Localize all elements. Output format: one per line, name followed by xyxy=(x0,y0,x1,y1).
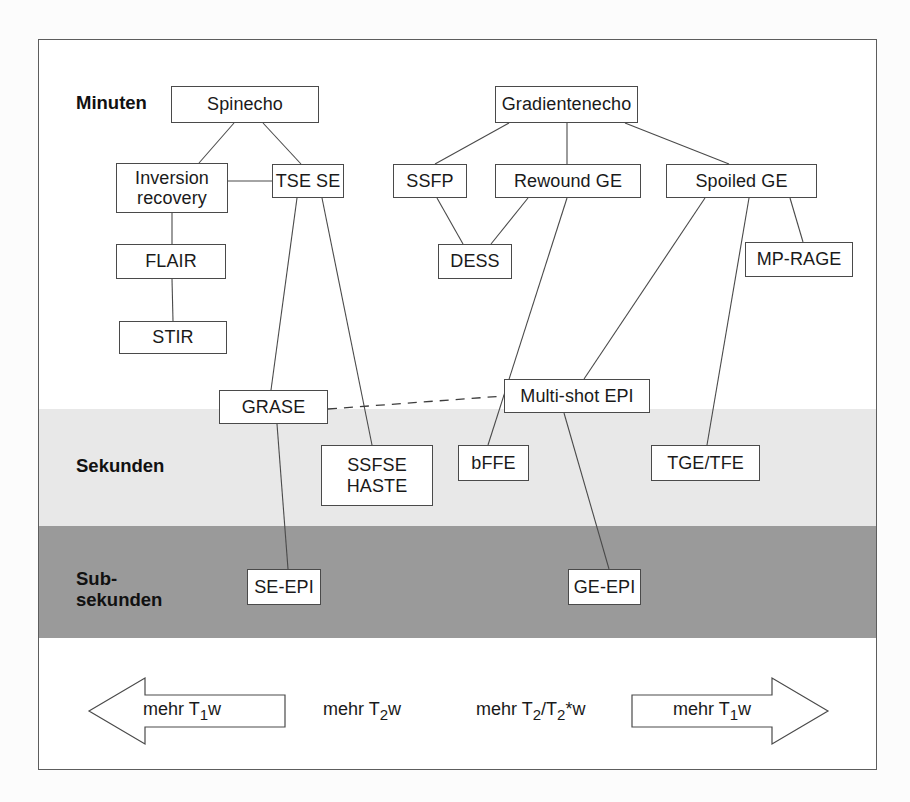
scale-label-sekunden: Sekunden xyxy=(76,455,164,476)
node-se-epi[interactable]: SE-EPI xyxy=(247,569,321,605)
edge-spoiled-ge-multi-shot-epi xyxy=(584,198,705,379)
diagram-frame: Minuten Sekunden Sub- sekunden Spinecho … xyxy=(38,39,877,770)
edge-spinecho-tse-se xyxy=(263,123,301,164)
edge-multi-shot-epi-ge-epi xyxy=(564,413,609,569)
edge-tse-se-grase xyxy=(271,198,297,390)
node-ssfse-haste[interactable]: SSFSE HASTE xyxy=(321,445,433,506)
scale-label-subsekunden: Sub- sekunden xyxy=(76,568,162,611)
axis-label-t2w: mehr T2w xyxy=(323,699,401,723)
node-spoiled-ge[interactable]: Spoiled GE xyxy=(666,164,817,198)
node-ssfp[interactable]: SSFP xyxy=(393,164,467,198)
node-ge-epi[interactable]: GE-EPI xyxy=(568,569,641,605)
node-dess[interactable]: DESS xyxy=(438,244,512,279)
node-grase[interactable]: GRASE xyxy=(219,390,328,424)
node-flair[interactable]: FLAIR xyxy=(116,244,226,279)
edge-rewound-ge-dess xyxy=(491,198,528,244)
node-multi-shot-epi[interactable]: Multi-shot EPI xyxy=(504,379,650,413)
node-rewound-ge[interactable]: Rewound GE xyxy=(495,164,641,198)
scale-label-minuten: Minuten xyxy=(76,92,147,113)
left-arrow-label: mehr T1w xyxy=(143,699,221,723)
edge-ssfp-dess xyxy=(437,198,463,244)
node-inversion-recovery[interactable]: Inversion recovery xyxy=(116,163,228,213)
diagram-page: Minuten Sekunden Sub- sekunden Spinecho … xyxy=(0,0,910,802)
axis-label-t2-t2star-w: mehr T2/T2*w xyxy=(476,699,585,723)
node-bffe[interactable]: bFFE xyxy=(458,445,529,481)
edge-gradientenecho-ssfp xyxy=(435,123,509,164)
edge-spinecho-inversion-recovery xyxy=(199,123,234,163)
node-tge-tfe[interactable]: TGE/TFE xyxy=(651,445,760,481)
node-mp-rage[interactable]: MP-RAGE xyxy=(745,242,853,277)
node-spinecho[interactable]: Spinecho xyxy=(171,86,319,123)
edge-grase-se-epi xyxy=(277,424,288,569)
connector-lines xyxy=(39,40,878,771)
edge-spoiled-ge-mp-rage xyxy=(790,198,803,242)
edge-spoiled-ge-tge-tfe xyxy=(707,198,749,445)
right-arrow-label: mehr T1w xyxy=(673,699,751,723)
edge-flair-stir xyxy=(172,279,173,321)
edge-gradientenecho-spoiled-ge xyxy=(625,123,729,164)
node-stir[interactable]: STIR xyxy=(119,321,227,354)
node-tse-se[interactable]: TSE SE xyxy=(272,164,344,198)
node-gradientenecho[interactable]: Gradientenecho xyxy=(495,86,638,123)
edge-grase-multi-shot-epi-dashed xyxy=(328,396,504,409)
